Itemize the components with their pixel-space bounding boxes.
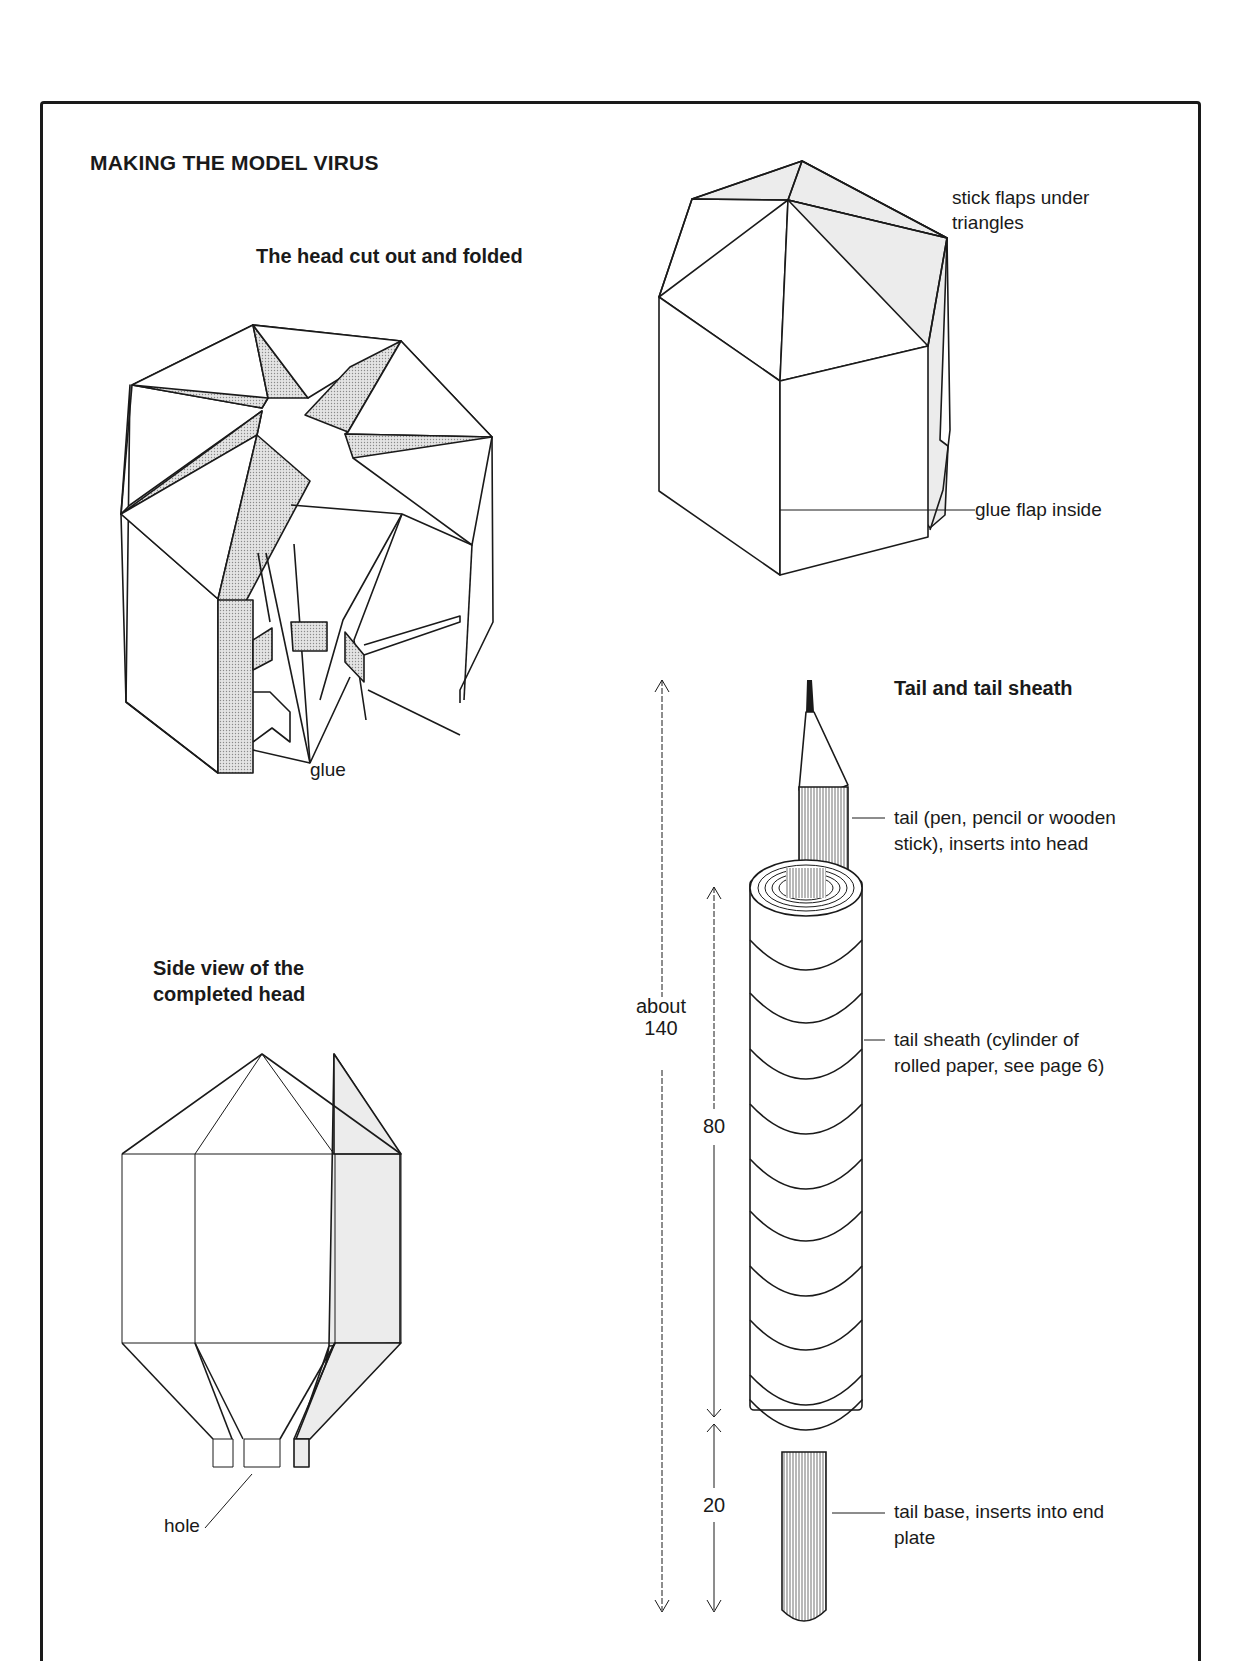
hole-label: hole	[164, 1514, 200, 1538]
sheath-label-line1: tail sheath (cylinder of	[894, 1028, 1079, 1052]
total-length-label-line2: 140	[625, 1016, 697, 1041]
glue-flap-label: glue flap inside	[975, 498, 1102, 522]
sheath-length-label: 80	[690, 1114, 738, 1139]
side-view-drawing	[122, 1054, 401, 1528]
glue-label: glue	[310, 758, 346, 782]
tail-label-line2: stick), inserts into head	[894, 832, 1088, 856]
side-view-heading-line1: Side view of the	[153, 956, 304, 981]
base-label-line1: tail base, inserts into end	[894, 1500, 1104, 1524]
folded-head-heading: The head cut out and folded	[256, 244, 523, 269]
sheath-label-line2: rolled paper, see page 6)	[894, 1054, 1104, 1078]
base-length-label: 20	[690, 1493, 738, 1518]
assembled-head-drawing	[659, 161, 975, 575]
tail-drawing	[655, 680, 885, 1621]
tail-heading: Tail and tail sheath	[894, 676, 1073, 701]
base-label-line2: plate	[894, 1526, 935, 1550]
page-title: MAKING THE MODEL VIRUS	[90, 150, 379, 176]
tail-label-line1: tail (pen, pencil or wooden	[894, 806, 1116, 830]
side-view-heading-line2: completed head	[153, 982, 305, 1007]
stick-flaps-label-line1: stick flaps under	[952, 186, 1089, 210]
stick-flaps-label-line2: triangles	[952, 211, 1024, 235]
folded-head-drawing	[121, 325, 493, 773]
